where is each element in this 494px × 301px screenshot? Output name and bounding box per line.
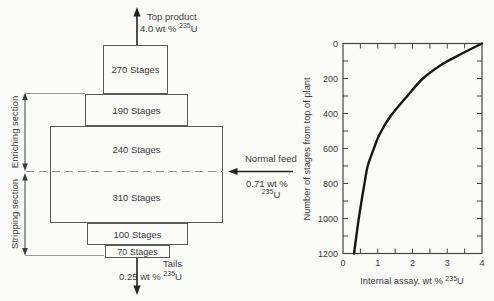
figure-canvas: 270 Stages 190 Stages 240 Stages 310 Sta… (0, 0, 494, 301)
x-axis-title: Internal assay, wt % 235U (360, 275, 464, 287)
y-axis-title: Number of stages from top of plant (302, 77, 312, 221)
stripping-bracket (22, 173, 28, 256)
svg-text:200: 200 (323, 74, 338, 84)
plot-frame (343, 44, 482, 254)
x-axis-ticks-bottom (360, 249, 464, 254)
assay-curve (354, 44, 482, 254)
y-axis-ticks-left (343, 61, 348, 236)
svg-text:400: 400 (323, 109, 338, 119)
enriching-bracket (22, 93, 28, 172)
tails-arrow-icon (133, 258, 140, 295)
top-product-arrow-icon (133, 7, 140, 45)
svg-text:3: 3 (445, 258, 450, 268)
svg-text:800: 800 (323, 179, 338, 189)
y-tick-labels: 020040060080010001200 (318, 39, 338, 259)
figure-overlay: 020040060080010001200 01234 Number of st… (0, 0, 494, 301)
svg-text:2: 2 (410, 258, 415, 268)
svg-text:1200: 1200 (318, 249, 338, 259)
x-axis-ticks-top (360, 44, 464, 49)
feed-arrow-icon (228, 168, 293, 175)
svg-text:1000: 1000 (318, 214, 338, 224)
x-tick-labels: 01234 (340, 258, 484, 268)
assay-chart: 020040060080010001200 01234 Number of st… (302, 39, 485, 287)
svg-text:0: 0 (333, 39, 338, 49)
y-axis-ticks-right (477, 61, 482, 236)
svg-text:0: 0 (340, 258, 345, 268)
svg-text:1: 1 (375, 258, 380, 268)
svg-text:600: 600 (323, 144, 338, 154)
svg-text:4: 4 (479, 258, 484, 268)
